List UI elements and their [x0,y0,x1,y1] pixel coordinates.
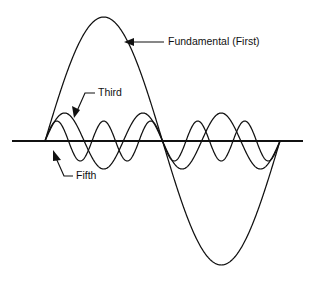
third-label: Third [98,86,122,98]
harmonics-plot: Fundamental (First) Third Fifth [0,0,315,281]
fifth-arrow-icon [53,150,61,161]
harmonics-figure: Fundamental (First) Third Fifth [0,0,315,281]
annotation-third: Third [72,86,122,118]
third-leader-line [77,93,95,111]
fundamental-label: Fundamental (First) [168,35,260,47]
fifth-label: Fifth [76,169,97,181]
annotation-fundamental: Fundamental (First) [124,35,260,47]
fifth-leader-line [56,158,73,176]
